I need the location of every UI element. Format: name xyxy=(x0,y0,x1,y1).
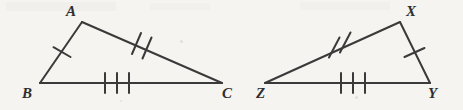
triangle-abc xyxy=(40,22,222,93)
tick-marks-side-ac xyxy=(132,33,152,59)
vertex-label-z: Z xyxy=(256,86,265,101)
vertex-label-y: Y xyxy=(428,86,437,101)
vertex-label-a: A xyxy=(66,4,76,19)
vertex-label-c: C xyxy=(222,86,232,101)
geometry-figure: A B C X Z Y xyxy=(0,0,463,110)
side-ac xyxy=(82,22,222,83)
vertex-label-x: X xyxy=(406,4,416,19)
tick-marks-side-ab xyxy=(54,47,71,57)
vertex-label-b: B xyxy=(22,86,32,101)
triangle-xyz xyxy=(265,22,430,93)
